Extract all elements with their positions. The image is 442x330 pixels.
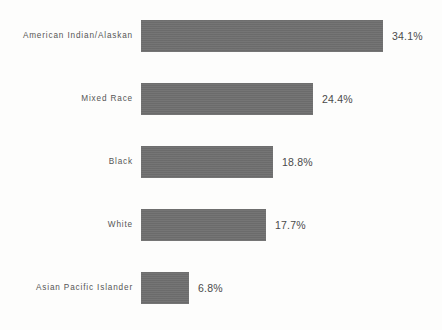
category-label: Mixed Race [81,95,133,103]
value-label: 17.7% [275,220,306,231]
value-label: 34.1% [392,31,423,42]
bar[interactable] [141,272,189,304]
category-label: Black [109,158,133,166]
bar-chart: American Indian/Alaskan 34.1% Mixed Race… [0,0,442,330]
value-label: 24.4% [322,94,353,105]
bar-row: Black 18.8% [0,146,442,178]
bar[interactable] [141,83,313,115]
bar[interactable] [141,20,383,52]
category-label: American Indian/Alaskan [23,32,133,40]
plot-area: American Indian/Alaskan 34.1% Mixed Race… [0,0,442,330]
value-label: 6.8% [198,283,223,294]
bar[interactable] [141,146,273,178]
bar-row: White 17.7% [0,209,442,241]
category-label: Asian Pacific Islander [36,284,133,292]
bar-row: Asian Pacific Islander 6.8% [0,272,442,304]
value-label: 18.8% [282,157,313,168]
category-label: White [108,221,133,229]
bar[interactable] [141,209,266,241]
bar-row: Mixed Race 24.4% [0,83,442,115]
bar-row: American Indian/Alaskan 34.1% [0,20,442,52]
